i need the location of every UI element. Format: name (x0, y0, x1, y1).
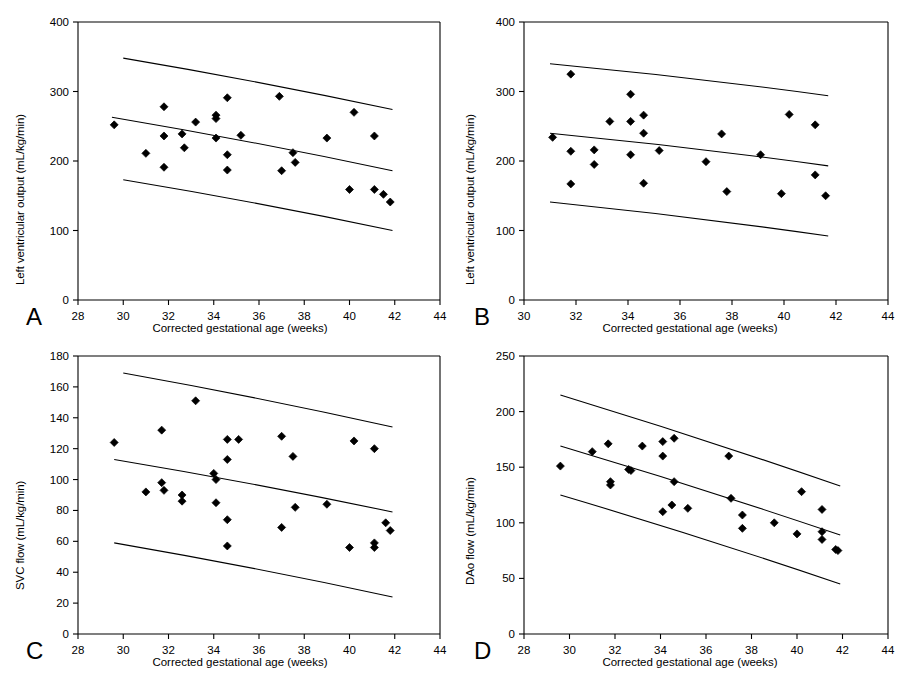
data-point (142, 488, 150, 496)
data-point (212, 499, 220, 507)
data-point (160, 132, 168, 140)
data-point (723, 188, 731, 196)
panel-a-label: A (26, 305, 42, 329)
y-tick-label: 300 (496, 86, 515, 98)
y-tick-label: 120 (50, 443, 69, 455)
x-tick-label: 32 (570, 310, 583, 322)
data-point (158, 479, 166, 487)
panel-d-x-axis-label: Corrected gestational age (weeks) (510, 656, 870, 668)
data-point (379, 190, 387, 198)
x-tick-label: 44 (434, 310, 447, 322)
y-tick-label: 400 (50, 16, 69, 28)
data-point (278, 167, 286, 175)
y-tick-label: 400 (496, 16, 515, 28)
x-tick-label: 44 (882, 310, 895, 322)
data-point (370, 132, 378, 140)
x-tick-label: 38 (726, 310, 739, 322)
data-point (604, 440, 612, 448)
data-point (725, 452, 733, 460)
x-tick-label: 38 (298, 310, 311, 322)
panel-c-x-axis-label: Corrected gestational age (weeks) (60, 656, 420, 668)
y-tick-label: 0 (63, 294, 69, 306)
data-point (655, 147, 663, 155)
panel-d-axes: 050100150200250283032343638404244 (496, 350, 895, 656)
y-tick-label: 50 (502, 572, 515, 584)
y-tick-label: 250 (496, 350, 515, 362)
x-tick-label: 32 (162, 644, 175, 656)
panel-d-label: D (474, 639, 491, 663)
x-tick-label: 38 (298, 644, 311, 656)
data-point (640, 179, 648, 187)
data-point (223, 542, 231, 550)
panel-b-x-axis-label: Corrected gestational age (weeks) (510, 322, 870, 334)
data-point (670, 434, 678, 442)
data-point (822, 192, 830, 200)
data-point (223, 151, 231, 159)
data-point (640, 111, 648, 119)
panel-c: 0204060801001201401601802830323436384042… (0, 340, 452, 675)
x-tick-label: 32 (609, 644, 622, 656)
data-point (606, 117, 614, 125)
panel-c-plot: 0204060801001201401601802830323436384042… (0, 340, 452, 675)
y-tick-label: 180 (50, 350, 69, 362)
data-point (777, 190, 785, 198)
y-tick-label: 0 (509, 294, 515, 306)
y-tick-label: 100 (50, 225, 69, 237)
x-tick-label: 34 (654, 644, 667, 656)
data-point (659, 508, 667, 516)
data-point (142, 149, 150, 157)
panel-b-y-axis-label: Left ventricular output (mL/kg/min) (464, 114, 476, 285)
x-tick-label: 34 (207, 310, 220, 322)
data-point (323, 134, 331, 142)
data-point (718, 130, 726, 138)
x-tick-label: 30 (117, 644, 130, 656)
data-point (289, 452, 297, 460)
data-point (640, 129, 648, 137)
x-tick-label: 30 (117, 310, 130, 322)
data-point (684, 504, 692, 512)
data-point (638, 442, 646, 450)
x-tick-label: 28 (518, 644, 531, 656)
y-tick-label: 160 (50, 381, 69, 393)
x-tick-label: 38 (745, 644, 758, 656)
x-tick-label: 36 (253, 644, 266, 656)
data-point (192, 397, 200, 405)
data-point (346, 544, 354, 552)
panel-b-axes: 01002003004003032343638404244 (496, 16, 895, 322)
data-point (567, 147, 575, 155)
y-tick-label: 0 (63, 628, 69, 640)
panel-c-axes: 0204060801001201401601802830323436384042… (50, 350, 447, 656)
y-tick-label: 200 (496, 155, 515, 167)
x-tick-label: 28 (72, 644, 85, 656)
x-tick-label: 40 (343, 310, 356, 322)
panel-a-x-axis-label: Corrected gestational age (weeks) (60, 322, 420, 334)
data-point (160, 163, 168, 171)
x-tick-label: 34 (622, 310, 635, 322)
data-point (110, 121, 118, 129)
panel-d-y-axis-label: DAo flow (mL/kg/min) (464, 477, 476, 585)
x-tick-label: 36 (253, 310, 266, 322)
y-tick-label: 200 (50, 155, 69, 167)
y-tick-label: 300 (50, 86, 69, 98)
x-tick-label: 44 (434, 644, 447, 656)
data-point (627, 117, 635, 125)
panel-a-axes: 0100200300400283032343638404244 (50, 16, 447, 322)
data-point (627, 151, 635, 159)
data-point (178, 130, 186, 138)
data-point (350, 108, 358, 116)
data-point (346, 185, 354, 193)
y-tick-label: 100 (50, 474, 69, 486)
data-point (785, 110, 793, 118)
data-point (567, 180, 575, 188)
data-point (278, 432, 286, 440)
data-point (291, 503, 299, 511)
data-point (223, 435, 231, 443)
y-tick-label: 150 (496, 461, 515, 473)
data-point (370, 445, 378, 453)
data-point (386, 527, 394, 535)
panel-b: 01002003004003032343638404244 Left ventr… (452, 0, 903, 340)
data-point (158, 426, 166, 434)
reference-line-upper-limit (123, 58, 392, 109)
x-tick-label: 28 (72, 310, 85, 322)
data-point (350, 437, 358, 445)
